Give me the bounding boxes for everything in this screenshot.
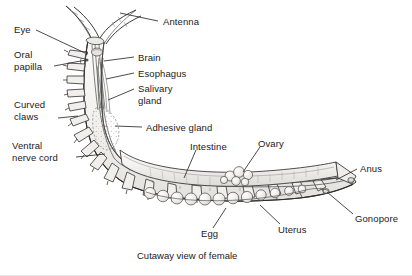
label-brain: Brain [138, 52, 161, 64]
label-esophagus: Esophagus [138, 68, 186, 80]
label-egg: Egg [201, 228, 218, 240]
egg [199, 193, 211, 205]
egg [227, 192, 239, 204]
leader-brain [104, 57, 134, 61]
leader-antenna [120, 13, 158, 21]
figure-caption: Cutaway view of female [137, 250, 237, 261]
egg [213, 193, 225, 205]
label-salivary-gland: Salivary gland [138, 83, 173, 106]
leader-salivary-gland [108, 89, 134, 100]
anus-opening [348, 178, 354, 183]
leader-ovary [243, 147, 260, 172]
leader-esophagus [106, 73, 134, 79]
label-adhesive-gland: Adhesive gland [146, 122, 212, 134]
brain [92, 48, 103, 56]
label-antenna: Antenna [163, 16, 199, 28]
label-gonopore: Gonopore [355, 213, 398, 225]
label-uterus: Uterus [278, 224, 307, 236]
leader-uterus [260, 205, 280, 224]
egg [185, 193, 197, 205]
label-oral-papilla: Oral papilla [14, 49, 42, 72]
label-anus: Anus [360, 163, 382, 175]
label-intestine: Intestine [190, 141, 227, 153]
label-ventral-nerve-cord: Ventral nerve cord [12, 140, 58, 163]
figure-canvas: Antenna Eye Oral papilla Brain Esophagus… [0, 0, 412, 276]
ovary [220, 167, 252, 186]
leader-adhesive-gland [115, 126, 142, 127]
label-eye: Eye [14, 24, 31, 36]
leader-eye [36, 30, 85, 53]
label-curved-claws: Curved claws [14, 99, 45, 122]
label-ovary: Ovary [258, 138, 284, 150]
leader-gonopore [327, 192, 353, 214]
egg [241, 191, 252, 202]
leader-egg [213, 208, 226, 228]
antennae [66, 6, 141, 44]
